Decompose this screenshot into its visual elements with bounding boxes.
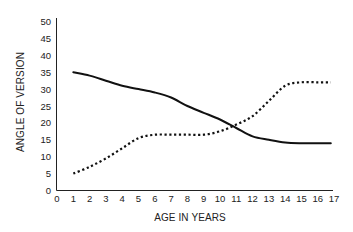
y-tick-label: 15 — [40, 134, 51, 145]
y-tick-label: 45 — [40, 33, 51, 44]
x-tick-label: 7 — [168, 193, 173, 204]
y-axis-title: ANGLE OF VERSION — [15, 52, 26, 152]
y-tick-label: 50 — [40, 16, 51, 27]
x-tick-label: 15 — [296, 193, 307, 204]
x-tick-label: 17 — [329, 193, 340, 204]
data-series — [73, 72, 331, 173]
y-tick-label: 40 — [40, 50, 51, 61]
x-tick-label: 4 — [120, 193, 125, 204]
x-axis-title: AGE IN YEARS — [154, 212, 226, 223]
y-tick-label: 30 — [40, 84, 51, 95]
x-tick-label: 10 — [215, 193, 226, 204]
y-tick-label: 20 — [40, 117, 51, 128]
line-chart: 05101520253035404550 0123456789101112131… — [0, 0, 353, 232]
x-tick-label: 9 — [201, 193, 206, 204]
x-tick-label: 1 — [71, 193, 76, 204]
y-tick-label: 0 — [46, 185, 51, 196]
x-tick-label: 2 — [87, 193, 92, 204]
x-tick-label: 5 — [136, 193, 141, 204]
x-tick-label: 13 — [264, 193, 275, 204]
y-tick-labels: 05101520253035404550 — [40, 16, 51, 196]
x-tick-label: 11 — [231, 193, 241, 204]
axes — [57, 18, 334, 191]
dotted-series-line — [73, 82, 331, 174]
x-tick-label: 6 — [152, 193, 157, 204]
y-tick-label: 10 — [40, 151, 51, 162]
x-tick-label: 16 — [313, 193, 324, 204]
x-tick-label: 0 — [54, 193, 59, 204]
x-tick-label: 14 — [280, 193, 291, 204]
y-tick-label: 35 — [40, 67, 51, 78]
x-tick-labels: 01234567891011121314151617 — [54, 193, 339, 204]
x-tick-label: 12 — [247, 193, 258, 204]
y-tick-label: 25 — [40, 101, 51, 112]
x-tick-label: 8 — [185, 193, 190, 204]
y-tick-label: 5 — [46, 168, 51, 179]
x-tick-label: 3 — [103, 193, 108, 204]
